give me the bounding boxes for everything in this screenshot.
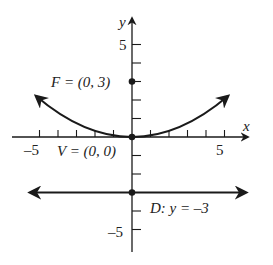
diagram-canvas: y x 5 –5 –5 5 F = (0, 3) V = (0, 0) D: y… (0, 0, 273, 265)
parabola-diagram: y x 5 –5 –5 5 F = (0, 3) V = (0, 0) D: y… (0, 0, 273, 265)
x-tick-label-5: 5 (216, 142, 224, 158)
directrix-label: D: y = –3 (149, 200, 209, 216)
vertex-label: V = (0, 0) (57, 143, 116, 160)
y-axis-label: y (117, 14, 126, 30)
vertex-point (129, 134, 136, 141)
x-axis-label: x (242, 118, 250, 134)
focus-point (129, 78, 136, 85)
x-tick-label-neg5: –5 (23, 142, 39, 158)
y-tick-label-5: 5 (119, 37, 127, 53)
directrix-point (129, 189, 136, 196)
y-tick-label-neg5: –5 (107, 224, 123, 240)
focus-label: F = (0, 3) (50, 74, 110, 91)
